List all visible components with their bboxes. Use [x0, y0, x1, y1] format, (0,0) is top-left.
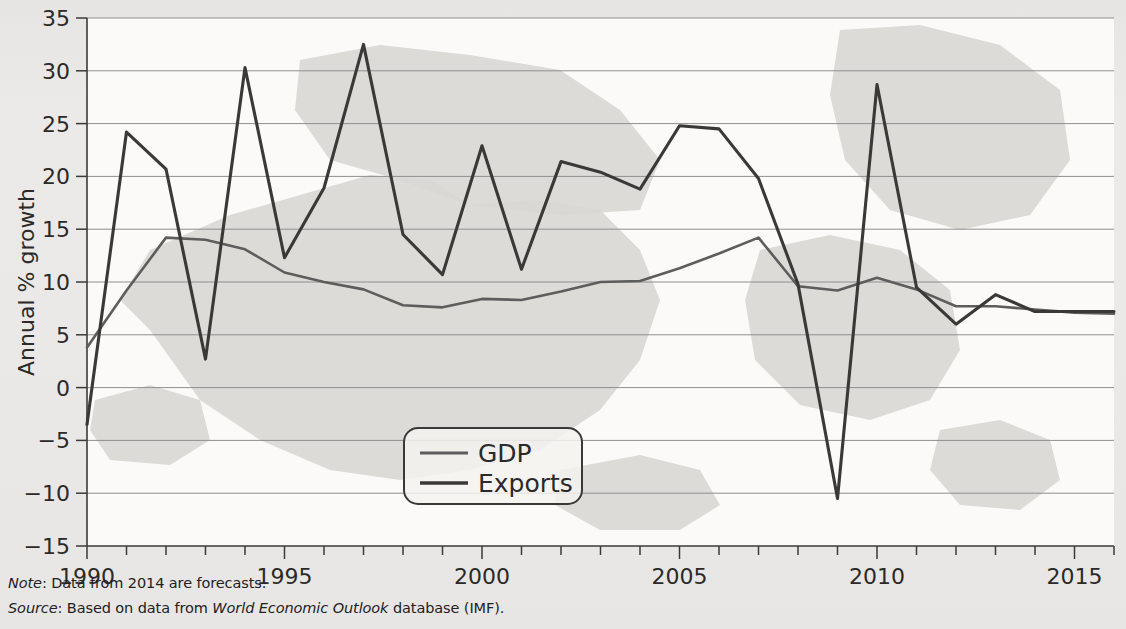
source-text-lead: : Based on data from [58, 600, 213, 616]
source-prefix: Source [8, 600, 58, 616]
legend-label-gdp: GDP [478, 439, 532, 468]
y-tick-label: 10 [42, 270, 70, 295]
y-axis-title: Annual % growth [14, 188, 39, 376]
x-tick-label: 2010 [849, 564, 905, 589]
y-tick-label: 30 [42, 59, 70, 84]
x-axis-ticks [87, 546, 1114, 559]
source-publication: World Economic Outlook [212, 600, 388, 616]
source-text-tail: database (IMF). [388, 600, 504, 616]
figure-note: Note: Data from 2014 are forecasts. [8, 575, 266, 591]
y-tick-label: 0 [56, 376, 70, 401]
x-tick-label: 2005 [652, 564, 708, 589]
note-text: : Data from 2014 are forecasts. [42, 575, 266, 591]
y-tick-label: 5 [56, 323, 70, 348]
y-tick-label: 15 [42, 217, 70, 242]
y-axis-ticks [76, 18, 87, 546]
chart-legend[interactable]: GDP Exports [404, 428, 582, 504]
y-tick-label: 25 [42, 112, 70, 137]
y-tick-label: −10 [24, 481, 70, 506]
legend-label-exports: Exports [478, 469, 573, 498]
y-tick-label: −15 [24, 534, 70, 559]
note-prefix: Note [8, 575, 42, 591]
x-tick-label: 2015 [1047, 564, 1103, 589]
y-tick-label: −5 [38, 428, 70, 453]
y-tick-label: 35 [42, 6, 70, 31]
x-tick-label: 2000 [454, 564, 510, 589]
y-tick-label: 20 [42, 164, 70, 189]
chart-figure: −15−10−505101520253035 19901995200020052… [0, 0, 1126, 629]
figure-source: Source: Based on data from World Economi… [8, 600, 504, 616]
figure-page: −15−10−505101520253035 19901995200020052… [0, 0, 1126, 629]
